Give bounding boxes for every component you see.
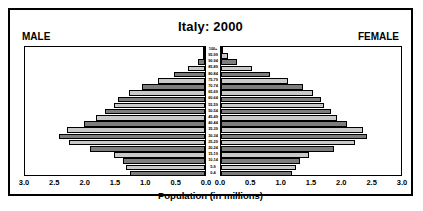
bar-left-25-29	[69, 140, 205, 146]
bar-right-25-29	[221, 140, 355, 146]
age-label-100plus: 100+	[206, 47, 220, 51]
bar-row	[221, 152, 401, 158]
bar-left-10-14	[123, 158, 205, 164]
bar-row	[221, 165, 401, 171]
male-bars	[25, 47, 205, 175]
bar-right-65-69	[221, 90, 313, 96]
chart-frame: Italy: 2000 MALE FEMALE 100+95-9990-9485…	[8, 8, 413, 196]
bar-row	[25, 146, 205, 152]
bar-left-90-94	[198, 59, 205, 65]
age-label-45-49: 45-49	[206, 115, 220, 119]
bar-row	[221, 72, 401, 78]
bar-row	[221, 97, 401, 103]
plot-area: 100+95-9990-9485-8980-8475-7970-7465-696…	[24, 46, 402, 176]
bar-left-65-69	[129, 90, 205, 96]
bar-row	[221, 121, 401, 127]
tick-male-2.0: 2.0	[79, 178, 89, 187]
bar-row	[25, 121, 205, 127]
bar-right-35-39	[221, 127, 363, 133]
bar-row	[221, 146, 401, 152]
bar-left-50-54	[105, 109, 205, 115]
age-label-90-94: 90-94	[206, 59, 220, 63]
bar-right-5-9	[221, 165, 296, 171]
female-side-label: FEMALE	[358, 31, 399, 42]
bar-row	[25, 47, 205, 53]
bar-row	[25, 109, 205, 115]
bar-row	[221, 134, 401, 140]
bar-row	[25, 140, 205, 146]
bar-row	[221, 90, 401, 96]
age-label-15-19: 15-19	[206, 152, 220, 156]
age-label-55-59: 55-59	[206, 103, 220, 107]
bar-left-55-59	[114, 103, 205, 109]
bar-left-85-89	[188, 66, 205, 72]
population-pyramid-chart: Italy: 2000 MALE FEMALE 100+95-9990-9485…	[0, 0, 423, 211]
bar-left-70-74	[142, 84, 205, 90]
bar-row	[221, 47, 401, 53]
age-label-40-44: 40-44	[206, 121, 220, 125]
male-axis-ticks: 3.02.52.01.51.00.50.0	[24, 176, 206, 190]
bar-left-45-49	[96, 115, 205, 121]
bar-row	[25, 103, 205, 109]
bar-row	[25, 84, 205, 90]
bar-row	[25, 59, 205, 65]
bar-right-20-24	[221, 146, 334, 152]
bar-row	[25, 53, 205, 59]
bar-row	[25, 134, 205, 140]
age-label-5-9: 5-9	[206, 165, 220, 169]
bar-right-10-14	[221, 158, 300, 164]
bar-left-100plus	[203, 47, 205, 53]
age-label-95-99: 95-99	[206, 53, 220, 57]
chart-title: Italy: 2000	[10, 19, 411, 34]
bar-row	[221, 127, 401, 133]
bar-right-85-89	[221, 66, 252, 72]
age-group-labels: 100+95-9990-9485-8980-8475-7970-7465-696…	[206, 46, 220, 176]
bar-right-70-74	[221, 84, 303, 90]
tick-female-0.5: 0.5	[245, 178, 255, 187]
bar-right-40-44	[221, 121, 347, 127]
bar-row	[25, 72, 205, 78]
bar-left-95-99	[203, 53, 205, 59]
age-label-30-34: 30-34	[206, 134, 220, 138]
bar-row	[221, 140, 401, 146]
female-panel	[220, 46, 402, 176]
tick-female-3.0: 3.0	[397, 178, 407, 187]
tick-male-1.5: 1.5	[110, 178, 120, 187]
tick-female-2.5: 2.5	[366, 178, 376, 187]
age-label-75-79: 75-79	[206, 78, 220, 82]
age-label-50-54: 50-54	[206, 109, 220, 113]
age-label-80-84: 80-84	[206, 72, 220, 76]
bar-row	[221, 53, 401, 59]
bar-row	[221, 103, 401, 109]
female-axis-ticks: 0.00.51.01.52.02.53.0	[220, 176, 402, 190]
bar-right-100plus	[221, 47, 223, 53]
tick-male-2.5: 2.5	[49, 178, 59, 187]
x-axis-title: Population (in millions)	[10, 190, 411, 201]
bar-right-55-59	[221, 103, 324, 109]
age-label-25-29: 25-29	[206, 140, 220, 144]
bar-row	[221, 59, 401, 65]
x-axis: 3.02.52.01.51.00.50.0 0.00.51.01.52.02.5…	[24, 176, 402, 190]
bar-left-30-34	[59, 134, 205, 140]
bar-row	[221, 109, 401, 115]
bar-left-15-19	[114, 152, 205, 158]
age-label-60-64: 60-64	[206, 96, 220, 100]
bar-right-80-84	[221, 72, 270, 78]
age-label-85-89: 85-89	[206, 65, 220, 69]
tick-male-0.5: 0.5	[170, 178, 180, 187]
tick-female-1.0: 1.0	[275, 178, 285, 187]
bar-row	[25, 90, 205, 96]
bar-left-80-84	[174, 72, 205, 78]
bar-row	[25, 165, 205, 171]
male-panel	[24, 46, 206, 176]
age-label-70-74: 70-74	[206, 84, 220, 88]
bar-row	[25, 158, 205, 164]
bar-right-75-79	[221, 78, 288, 84]
bar-row	[25, 78, 205, 84]
bar-row	[25, 152, 205, 158]
bar-right-60-64	[221, 97, 321, 103]
tick-female-2.0: 2.0	[336, 178, 346, 187]
bar-left-75-79	[158, 78, 205, 84]
bar-row	[25, 127, 205, 133]
bar-row	[221, 115, 401, 121]
